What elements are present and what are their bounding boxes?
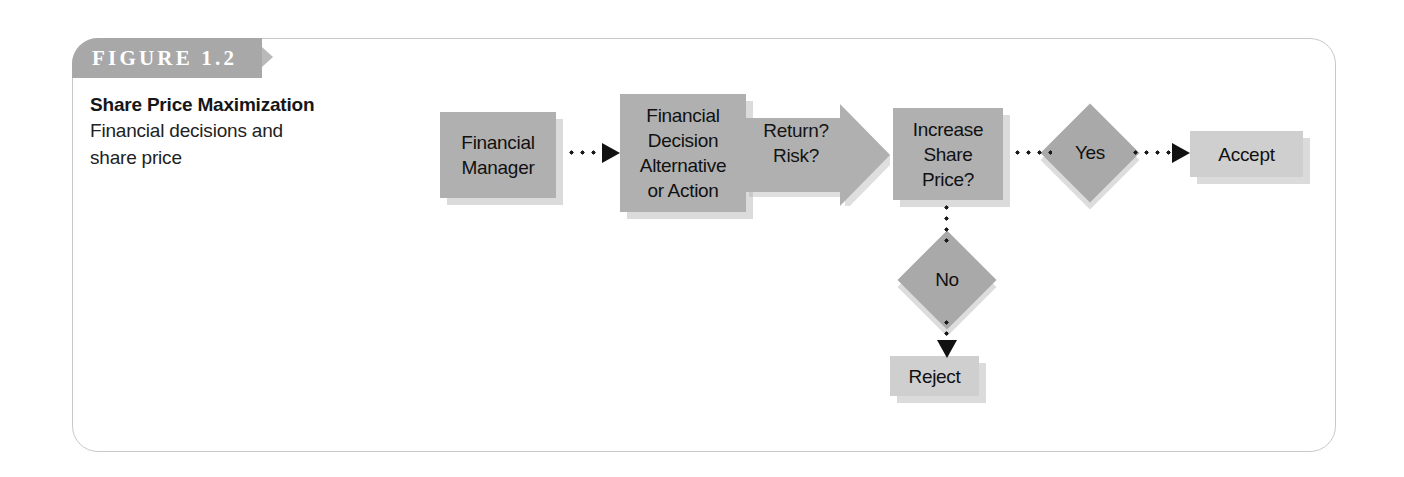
connector-manager-to-decision: [566, 150, 606, 155]
arrowhead-no-to-reject-icon: [937, 340, 957, 358]
node-return-risk-line1: Return?: [752, 118, 840, 143]
node-increase-share-price-line2: Share: [913, 142, 983, 167]
node-decision-no-label: No: [935, 269, 959, 291]
node-financial-manager-line1: Financial: [461, 130, 534, 155]
arrowhead-manager-to-decision-icon: [602, 143, 620, 163]
node-return-risk-label: Return? Risk?: [752, 118, 840, 168]
node-financial-decision-line4: or Action: [640, 178, 726, 203]
node-increase-share-price-line1: Increase: [913, 117, 983, 142]
caption-title: Share Price Maximization: [90, 92, 390, 117]
caption-subtitle-line2: share price: [90, 144, 390, 171]
figure-number-label: FIGURE 1.2: [92, 46, 237, 71]
node-return-risk-line2: Risk?: [752, 143, 840, 168]
connector-yes-to-accept: [1130, 150, 1178, 155]
banner-pointer-icon: [262, 47, 273, 67]
arrowhead-yes-to-accept-icon: [1172, 143, 1190, 163]
node-accept: Accept: [1190, 131, 1303, 177]
node-decision-yes: Yes: [1055, 118, 1125, 188]
node-reject-label: Reject: [908, 364, 960, 389]
node-financial-decision-line2: Decision: [640, 128, 726, 153]
node-decision-no: No: [912, 245, 982, 315]
figure-caption: Share Price Maximization Financial decis…: [90, 92, 390, 171]
node-increase-share-price-line3: Price?: [913, 167, 983, 192]
node-increase-share-price: Increase Share Price?: [893, 108, 1003, 200]
connector-increase-to-yes: [1012, 150, 1052, 155]
node-reject: Reject: [890, 356, 979, 396]
node-financial-decision-line1: Financial: [640, 103, 726, 128]
node-decision-yes-label: Yes: [1075, 142, 1105, 164]
caption-subtitle-line1: Financial decisions and: [90, 117, 390, 144]
node-accept-label: Accept: [1218, 142, 1274, 167]
node-financial-decision-line3: Alternative: [640, 153, 726, 178]
node-financial-manager-line2: Manager: [461, 155, 534, 180]
node-financial-manager: Financial Manager: [440, 112, 556, 198]
node-financial-decision: Financial Decision Alternative or Action: [620, 94, 746, 212]
connector-increase-to-no: [944, 202, 949, 244]
figure-banner: FIGURE 1.2: [72, 38, 262, 78]
